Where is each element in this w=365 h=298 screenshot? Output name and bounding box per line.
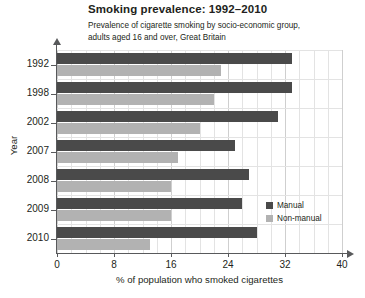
y-tick-2009 <box>51 210 56 211</box>
x-axis-arrow-icon <box>347 250 354 258</box>
x-axis-line <box>56 253 348 254</box>
gridline-vertical <box>242 50 243 253</box>
y-tick-label-1998: 1998 <box>6 87 49 98</box>
bar-2010-non-manual <box>57 239 150 251</box>
x-tick-label-32: 32 <box>270 259 300 270</box>
bar-1998-non-manual <box>57 94 214 106</box>
y-tick-2008 <box>51 181 56 182</box>
gridline-vertical <box>228 50 229 253</box>
x-tick-24 <box>228 253 229 257</box>
x-tick-label-40: 40 <box>327 259 357 270</box>
y-tick-2002 <box>51 123 56 124</box>
bar-2007-manual <box>57 140 235 152</box>
bar-2002-manual <box>57 111 278 123</box>
legend-item-non-manual: Non-manual <box>266 213 346 224</box>
x-tick-0 <box>57 253 58 257</box>
y-axis-arrow-icon <box>53 38 61 45</box>
gridline-horizontal <box>57 137 342 138</box>
x-tick-label-24: 24 <box>213 259 243 270</box>
bar-2007-non-manual <box>57 152 178 164</box>
gridline-horizontal <box>57 195 342 196</box>
gridline-vertical <box>185 50 186 253</box>
legend-swatch-non-manual-icon <box>266 215 273 222</box>
bar-2008-non-manual <box>57 181 171 193</box>
gridline-horizontal <box>57 108 342 109</box>
gridline-vertical <box>200 50 201 253</box>
bar-1998-manual <box>57 82 292 94</box>
legend-swatch-manual-icon <box>266 202 273 209</box>
gridline-horizontal <box>57 50 342 51</box>
y-tick-1998 <box>51 94 56 95</box>
chart-legend: Manual Non-manual <box>266 200 346 226</box>
gridline-horizontal <box>57 166 342 167</box>
chart-title: Smoking prevalence: 1992–2010 <box>88 2 348 17</box>
chart-subtitle: Prevalence of cigarette smoking by socio… <box>88 20 320 43</box>
bar-2010-manual <box>57 227 257 239</box>
legend-item-manual: Manual <box>266 200 346 211</box>
title-block: Smoking prevalence: 1992–2010 Prevalence… <box>88 2 348 43</box>
y-axis-line <box>56 44 57 254</box>
gridline-vertical <box>214 50 215 253</box>
legend-label-non-manual: Non-manual <box>277 214 322 223</box>
x-tick-32 <box>285 253 286 257</box>
x-axis-title: % of population who smoked cigarettes <box>57 274 342 285</box>
y-tick-label-2009: 2009 <box>6 203 49 214</box>
legend-label-manual: Manual <box>277 201 304 210</box>
chart-figure: Smoking prevalence: 1992–2010 Prevalence… <box>0 0 365 298</box>
bar-2002-non-manual <box>57 123 200 135</box>
bar-2009-non-manual <box>57 210 171 222</box>
y-axis-title: Year <box>8 116 19 176</box>
x-tick-label-0: 0 <box>42 259 72 270</box>
x-tick-8 <box>114 253 115 257</box>
x-tick-label-16: 16 <box>156 259 186 270</box>
y-tick-1992 <box>51 65 56 66</box>
x-tick-label-8: 8 <box>99 259 129 270</box>
bar-2009-manual <box>57 198 242 210</box>
x-tick-40 <box>342 253 343 257</box>
y-tick-label-2010: 2010 <box>6 232 49 243</box>
gridline-vertical <box>257 50 258 253</box>
gridline-horizontal <box>57 79 342 80</box>
bar-1992-non-manual <box>57 65 221 77</box>
y-tick-2007 <box>51 152 56 153</box>
y-tick-label-1992: 1992 <box>6 58 49 69</box>
bar-1992-manual <box>57 53 292 65</box>
x-tick-16 <box>171 253 172 257</box>
bar-2008-manual <box>57 169 249 181</box>
y-tick-2010 <box>51 239 56 240</box>
